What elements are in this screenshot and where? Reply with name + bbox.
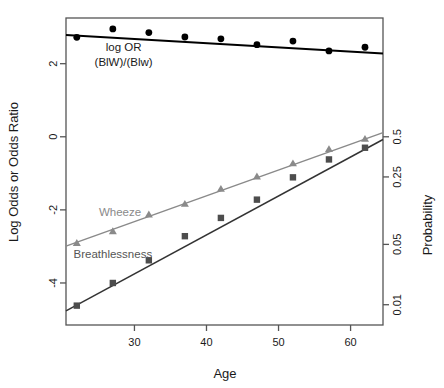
data-point [182, 233, 188, 239]
data-point [109, 26, 116, 33]
y2-tick-label-0.5: 0.5 [391, 129, 403, 144]
x-tick-label-30: 30 [128, 336, 140, 348]
data-point [73, 34, 80, 41]
data-point [110, 280, 116, 286]
logor-label-line2: (BlW)/(Blw) [95, 56, 153, 68]
breathlessness-label: Breathlessness [74, 248, 153, 260]
y-tick-label--2: -2 [47, 205, 59, 215]
chart-canvas: 30405060 20-2-4 0.50.250.050.01 log OR(B… [0, 0, 444, 388]
data-point [362, 145, 368, 151]
y-axis-label-right: Probability [420, 194, 435, 255]
data-point [290, 174, 296, 180]
data-point [217, 35, 224, 42]
data-point [326, 47, 333, 54]
x-axis-label: Age [213, 366, 236, 381]
data-point [290, 38, 297, 45]
data-point [362, 44, 369, 51]
wheeze-label: Wheeze [99, 206, 141, 218]
y-tick-label-0: 0 [47, 134, 59, 140]
chart-figure: 30405060 20-2-4 0.50.250.050.01 log OR(B… [0, 0, 444, 388]
data-point [254, 196, 260, 202]
y2-tick-label-0.05: 0.05 [391, 234, 403, 255]
y2-tick-label-0.01: 0.01 [391, 294, 403, 315]
data-point [254, 41, 261, 48]
x-tick-label-40: 40 [200, 336, 212, 348]
y2-tick-label-0.25: 0.25 [391, 166, 403, 187]
x-tick-label-50: 50 [272, 336, 284, 348]
y-axis-label-left: Log Odds or Odds Ratio [6, 102, 21, 242]
y-tick-label-2: 2 [47, 61, 59, 67]
x-tick-label-60: 60 [344, 336, 356, 348]
data-point [181, 34, 188, 41]
logor-label-line1: log OR [106, 41, 142, 53]
data-point [145, 29, 152, 36]
y-tick-label--4: -4 [47, 278, 59, 288]
data-point [218, 215, 224, 221]
data-point [74, 302, 80, 308]
data-point [326, 156, 332, 162]
